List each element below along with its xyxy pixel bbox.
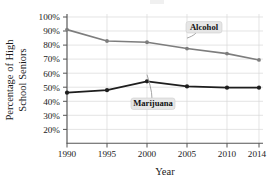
- y-tick-label: 20%: [43, 125, 60, 135]
- data-point: [225, 86, 229, 90]
- data-point: [105, 88, 109, 92]
- y-tick-label: 70%: [43, 54, 60, 64]
- data-point: [257, 86, 261, 90]
- horizontal-gridlines: [67, 17, 263, 129]
- data-point: [65, 28, 69, 32]
- data-point: [257, 58, 261, 62]
- x-axis-title: Year: [155, 166, 175, 177]
- data-point: [225, 52, 229, 56]
- y-tick-label: 80%: [43, 40, 60, 50]
- x-tick-label: 2010: [218, 149, 237, 159]
- marijuana-callout-label: Marijuana: [133, 98, 173, 108]
- y-tick-label: 100%: [39, 12, 61, 22]
- marijuana-leader-line: [147, 75, 152, 99]
- y-tick-label: 30%: [43, 111, 60, 121]
- y-tick-label: 90%: [43, 26, 60, 36]
- chart-container: 100% 90% 80% 70% 60% 50% 40% 30% 20% 199…: [0, 0, 268, 180]
- alcohol-callout-label: Alcohol: [190, 22, 219, 32]
- y-tick-label: 40%: [43, 97, 60, 107]
- data-point: [145, 40, 149, 44]
- annotation-marijuana: Marijuana: [131, 75, 175, 110]
- y-tick-label: 60%: [43, 69, 60, 79]
- y-axis-title-line1: Percentage of High: [4, 39, 15, 121]
- x-tick-label: 1990: [58, 149, 77, 159]
- data-point: [105, 39, 109, 43]
- x-tick-marks: [67, 143, 259, 147]
- y-axis-title: Percentage of High School Seniors: [4, 39, 28, 121]
- x-tick-label: 2014: [248, 149, 267, 159]
- data-point: [65, 91, 69, 95]
- y-axis-title-line2: School Seniors: [17, 48, 28, 111]
- axis-lines: [67, 14, 264, 144]
- y-tick-marks: [63, 17, 67, 129]
- x-axis-tick-labels: 1990 1995 2000 2005 2010 2014: [58, 149, 267, 159]
- line-chart: 100% 90% 80% 70% 60% 50% 40% 30% 20% 199…: [0, 0, 268, 180]
- title-artifact: [150, 0, 164, 4]
- y-tick-label: 50%: [43, 83, 60, 93]
- y-axis-tick-labels: 100% 90% 80% 70% 60% 50% 40% 30% 20%: [39, 12, 61, 134]
- x-tick-label: 2000: [138, 149, 157, 159]
- annotation-alcohol: Alcohol: [186, 22, 222, 39]
- vertical-gridlines: [67, 14, 259, 143]
- x-tick-label: 2005: [178, 149, 197, 159]
- alcohol-leader-line: [187, 33, 196, 38]
- x-tick-label: 1995: [98, 149, 117, 159]
- data-point: [185, 84, 189, 88]
- data-point: [185, 47, 189, 51]
